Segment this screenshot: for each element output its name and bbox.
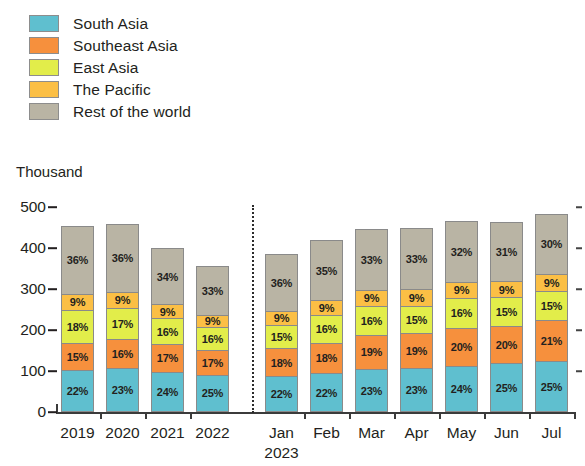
stacked-bar[interactable]: 22%18%15%9%36% <box>265 250 298 412</box>
bar-segment[interactable]: 22% <box>310 373 343 412</box>
bar-segment[interactable]: 18% <box>61 310 94 344</box>
x-axis-label: 2019 <box>60 424 94 442</box>
bar-segment-label: 36% <box>67 254 88 266</box>
bar-segment[interactable]: 15% <box>61 343 94 371</box>
x-axis-label: Jul <box>542 424 562 442</box>
x-axis-label-line1: Jan <box>269 424 294 441</box>
x-axis-tick-mark <box>304 412 306 419</box>
x-axis-line <box>56 412 574 414</box>
bar-segment[interactable]: 18% <box>265 348 298 377</box>
bar-segment[interactable]: 9% <box>106 292 139 309</box>
bar-segment[interactable]: 16% <box>106 339 139 369</box>
bar-segment[interactable]: 20% <box>445 328 478 367</box>
bar-segment[interactable]: 18% <box>310 343 343 375</box>
bar-segment[interactable]: 16% <box>355 306 388 336</box>
bar-segment[interactable]: 9% <box>265 311 298 326</box>
stacked-bar[interactable]: 22%18%16%9%35% <box>310 236 343 412</box>
bar-segment-label: 15% <box>67 351 88 363</box>
bar-segment[interactable]: 9% <box>490 281 523 298</box>
bar-segment[interactable]: 24% <box>445 366 478 412</box>
bar-segment[interactable]: 24% <box>151 372 184 412</box>
bar-segment[interactable]: 33% <box>400 228 433 291</box>
x-axis-tick-mark <box>145 412 147 419</box>
bar-segment[interactable]: 31% <box>490 222 523 282</box>
x-axis-label-line1: Feb <box>313 424 340 441</box>
bar-segment[interactable]: 25% <box>196 375 229 413</box>
right-axis-tick-mark <box>576 288 582 290</box>
bar-segment-label: 9% <box>160 306 176 318</box>
bar-segment[interactable]: 36% <box>265 254 298 312</box>
bar-segment[interactable]: 9% <box>400 289 433 306</box>
bar-segment[interactable]: 15% <box>490 297 523 326</box>
x-axis-tick-mark <box>529 412 531 419</box>
y-axis-tick-mark <box>48 206 57 208</box>
bar-segment-label: 36% <box>271 277 292 289</box>
stacked-bar[interactable]: 25%17%16%9%33% <box>196 262 229 412</box>
bar-segment[interactable]: 34% <box>151 248 184 305</box>
bar-segment[interactable]: 22% <box>265 376 298 412</box>
y-axis-tick-mark <box>48 370 57 372</box>
stacked-bar[interactable]: 23%19%16%9%33% <box>355 225 388 412</box>
bar-segment[interactable]: 9% <box>310 300 343 316</box>
x-axis-tick-mark <box>394 412 396 419</box>
stacked-bar[interactable]: 22%15%18%9%36% <box>61 222 94 412</box>
bar-segment[interactable]: 16% <box>196 327 229 351</box>
bar-segment[interactable]: 17% <box>151 344 184 373</box>
stacked-bar[interactable]: 25%21%15%9%30% <box>535 210 568 412</box>
bar-segment[interactable]: 25% <box>535 361 568 412</box>
bar-segment-label: 17% <box>157 352 178 364</box>
stacked-bar[interactable]: 25%20%15%9%31% <box>490 218 523 412</box>
bar-segment[interactable]: 30% <box>535 214 568 275</box>
bar-segment[interactable]: 9% <box>535 274 568 292</box>
bar-segment[interactable]: 33% <box>196 266 229 316</box>
bar-segment-label: 17% <box>112 318 133 330</box>
bar-segment[interactable]: 9% <box>61 294 94 311</box>
bar-segment[interactable]: 9% <box>445 282 478 299</box>
bar-segment[interactable]: 16% <box>151 318 184 345</box>
bar-segment[interactable]: 20% <box>490 326 523 365</box>
bar-segment[interactable]: 36% <box>61 226 94 294</box>
bar-segment-label: 15% <box>541 300 562 312</box>
x-axis-label: Apr <box>404 424 428 442</box>
bar-segment[interactable]: 23% <box>106 368 139 412</box>
bar-segment[interactable]: 15% <box>400 306 433 335</box>
y-axis-tick-label: 200 <box>4 321 46 339</box>
bar-segment[interactable]: 17% <box>106 308 139 340</box>
bar-segment[interactable]: 9% <box>355 290 388 307</box>
bar-segment-label: 16% <box>451 307 472 319</box>
bar-segment-label: 32% <box>451 246 472 258</box>
bar-segment[interactable]: 22% <box>61 370 94 412</box>
bar-segment[interactable]: 16% <box>445 298 478 329</box>
stacked-bar[interactable]: 24%17%16%9%34% <box>151 244 184 412</box>
bar-segment[interactable]: 9% <box>151 304 184 319</box>
bar-segment[interactable]: 36% <box>106 224 139 292</box>
bar-segment-label: 18% <box>67 321 88 333</box>
bar-segment-label: 33% <box>202 285 223 297</box>
bar-segment-label: 33% <box>361 254 382 266</box>
bar-segment[interactable]: 23% <box>355 369 388 412</box>
bar-segment[interactable]: 9% <box>196 315 229 329</box>
y-axis-tick-label: 300 <box>4 280 46 298</box>
bar-segment[interactable]: 32% <box>445 221 478 283</box>
x-axis-label: 2020 <box>105 424 139 442</box>
bar-segment[interactable]: 21% <box>535 320 568 362</box>
bar-segment[interactable]: 15% <box>535 291 568 321</box>
bar-segment[interactable]: 19% <box>400 333 433 369</box>
bar-segment-label: 19% <box>361 346 382 358</box>
y-axis-tick-label: 0 <box>4 403 46 421</box>
stacked-bar[interactable]: 23%19%15%9%33% <box>400 222 433 412</box>
bar-segment-label: 24% <box>451 383 472 395</box>
bar-segment[interactable]: 19% <box>355 335 388 370</box>
bar-segment[interactable]: 33% <box>355 229 388 291</box>
bar-segment[interactable]: 17% <box>196 350 229 376</box>
bar-segment[interactable]: 16% <box>310 315 343 343</box>
bar-segment[interactable]: 25% <box>490 363 523 412</box>
x-axis-label: Jan2023 <box>264 424 298 462</box>
bar-segment[interactable]: 35% <box>310 240 343 302</box>
bar-segment-label: 9% <box>364 292 380 304</box>
bar-segment-label: 9% <box>409 292 425 304</box>
stacked-bar[interactable]: 24%20%16%9%32% <box>445 218 478 412</box>
bar-segment[interactable]: 15% <box>265 325 298 349</box>
stacked-bar[interactable]: 23%16%17%9%36% <box>106 222 139 412</box>
bar-segment[interactable]: 23% <box>400 368 433 412</box>
